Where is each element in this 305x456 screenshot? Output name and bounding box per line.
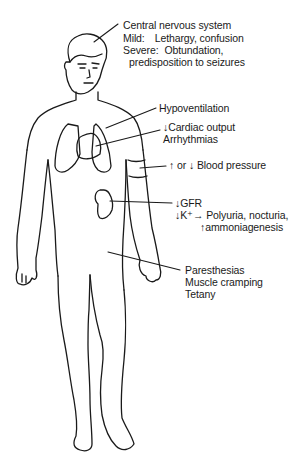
head-outline: [65, 34, 107, 94]
lungs-label: Hypoventilation: [159, 102, 229, 114]
cns-mild: Mild:Lethargy, confusion: [123, 32, 245, 44]
cns-severe-value: Obtundation,: [165, 44, 224, 56]
kidney-label: ↓GFR ↓K⁺→ Polyuria, nocturia, ↑ammoniage…: [175, 197, 288, 233]
muscle-line2: Muscle cramping: [185, 276, 263, 288]
blood-pressure-label: ↑ or ↓ Blood pressure: [169, 159, 266, 171]
muscle-label: Paresthesias Muscle cramping Tetany: [185, 264, 263, 300]
muscle-line3: Tetany: [185, 288, 263, 300]
cns-title: Central nervous system: [123, 19, 245, 31]
cns-severe-key: Severe:: [123, 44, 159, 56]
lungs-outline: [55, 124, 111, 172]
cns-severe: Severe:Obtundation,: [123, 44, 245, 56]
blood-pressure-text: ↑ or ↓ Blood pressure: [169, 159, 266, 171]
heart-line2: Arrhythmias: [163, 133, 235, 145]
heart-line1: ↓Cardiac output: [163, 121, 235, 133]
cns-mild-key: Mild:: [123, 32, 145, 44]
cns-mild-value: Lethargy, confusion: [155, 32, 244, 44]
cns-label: Central nervous system Mild:Lethargy, co…: [123, 19, 245, 68]
heart-label: ↓Cardiac output Arrhythmias: [163, 121, 235, 145]
kidney-line2: ↓K⁺→ Polyuria, nocturia,: [175, 209, 288, 221]
muscle-line1: Paresthesias: [185, 264, 263, 276]
cns-severe-cont: predisposition to seizures: [123, 56, 245, 68]
lungs-text: Hypoventilation: [159, 102, 229, 114]
kidney-outline: [95, 190, 112, 219]
kidney-line1: ↓GFR: [175, 197, 288, 209]
legs-outline: [58, 275, 134, 451]
kidney-line3: ↑ammoniagenesis: [175, 221, 288, 233]
